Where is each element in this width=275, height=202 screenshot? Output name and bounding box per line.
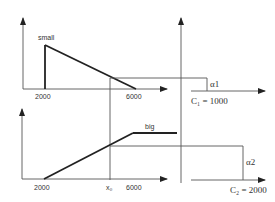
big-label: big [145,123,154,131]
small-label: small [38,34,55,41]
alpha2-label: α2 [246,157,255,167]
alpha1-label: α1 [210,79,219,89]
c1-label: C₁ = 1000 [191,96,228,106]
fuzzy-membership-diagram: small 2000 6000 α1 C₁ = 1000 big 2000 x₀… [0,0,275,202]
x0-label: x₀ [106,184,113,191]
big-curve-slope [44,133,133,179]
c2-label: C₂ = 2000 [230,185,267,195]
small-curve-slope [45,45,136,89]
upper-tick-2000: 2000 [35,93,51,100]
lower-tick-6000: 6000 [126,184,142,191]
lower-tick-2000: 2000 [34,184,50,191]
upper-tick-6000: 6000 [126,93,142,100]
